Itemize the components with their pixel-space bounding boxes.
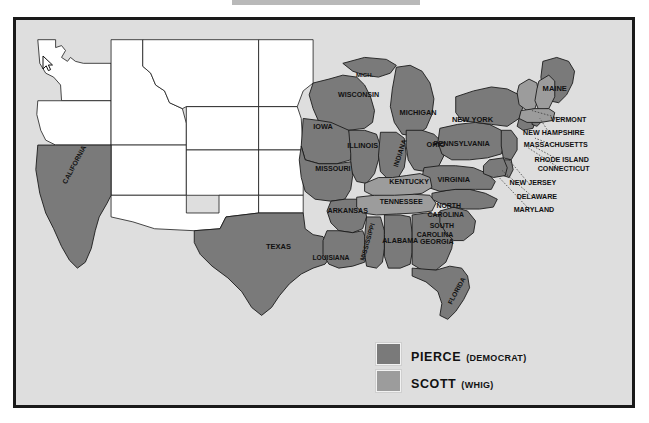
state-label-north: NORTH [436, 202, 461, 209]
territory-minnesota [259, 40, 313, 107]
state-new-jersey [501, 130, 517, 160]
legend-item-scott: SCOTT(WHIG) [411, 374, 494, 392]
state-label-maryland: MARYLAND [514, 206, 555, 214]
top-edge-strip [232, 0, 420, 5]
state-label-vermont: VERMONT [551, 116, 587, 124]
state-label-delaware: DELAWARE [517, 193, 558, 201]
state-label-new-york: NEW YORK [452, 115, 494, 124]
legend-item-pierce: PIERCE(DEMOCRAT) [411, 347, 526, 365]
state-label-maine: MAINE [543, 84, 567, 93]
state-label-virginia: VIRGINIA [437, 175, 470, 184]
state-label-arkansas: ARKANSAS [328, 207, 369, 215]
territory-nebraska [186, 107, 258, 150]
territory-oregon [37, 101, 111, 145]
legend-swatch-scott [376, 370, 401, 392]
territory-washington [38, 40, 111, 101]
legend-party-scott: (WHIG) [461, 380, 493, 390]
state-ohio [406, 130, 444, 171]
state-label-carolina: CAROLINA [428, 211, 465, 218]
state-label-louisiana: LOUISIANA [312, 254, 349, 261]
state-maryland [483, 158, 507, 178]
legend-party-pierce: (DEMOCRAT) [466, 353, 526, 363]
legend-candidate-pierce: PIERCE [411, 350, 461, 364]
territory-plains-south [259, 150, 304, 195]
state-label-georgia: GEORGIA [420, 238, 454, 246]
us-election-map: MICH.WISCONSINMICHIGANIOWAILLINOISINDIAN… [16, 20, 632, 405]
map-frame: MICH.WISCONSINMICHIGANIOWAILLINOISINDIAN… [13, 17, 635, 408]
legend-candidate-scott: SCOTT [411, 377, 456, 391]
state-label-connecticut: CONNECTICUT [538, 165, 591, 173]
state-label-missouri: MISSOURI [315, 165, 350, 173]
state-label-alabama: ALABAMA [382, 237, 418, 245]
state-label-pennsylvania: PENNSYLVANIA [434, 139, 491, 148]
state-label-iowa: IOWA [313, 122, 333, 131]
state-label-mich-: MICH. [356, 71, 374, 78]
state-florida [412, 266, 469, 319]
state-label-south: SOUTH [430, 222, 454, 229]
state-label-illinois: ILLINOIS [347, 141, 378, 150]
state-label-rhode-island: RHODE ISLAND [535, 156, 589, 164]
territory-plains-mid [259, 107, 304, 150]
state-label-massachusetts: MASSACHUSETTS [524, 141, 588, 149]
state-label-kentucky: KENTUCKY [389, 178, 429, 186]
state-label-new-hampshire: NEW HAMPSHIRE [523, 129, 585, 137]
legend-swatch-pierce [376, 343, 401, 365]
territory-indian [259, 195, 304, 213]
state-massachusetts [519, 109, 555, 123]
state-label-tennessee: TENNESSEE [380, 198, 423, 206]
state-illinois [349, 130, 381, 183]
territory-utah [111, 145, 186, 195]
state-michigan [390, 65, 434, 136]
territory-kansas [186, 150, 258, 195]
state-label-carolina: CAROLINA [417, 231, 454, 238]
state-label-wisconsin: WISCONSIN [338, 91, 379, 99]
state-label-new-jersey: NEW JERSEY [510, 179, 557, 187]
state-label-texas: TEXAS [266, 242, 291, 251]
leader-label-layer: VERMONTNEW HAMPSHIREMASSACHUSETTSRHODE I… [510, 116, 591, 214]
state-label-michigan: MICHIGAN [400, 108, 437, 117]
